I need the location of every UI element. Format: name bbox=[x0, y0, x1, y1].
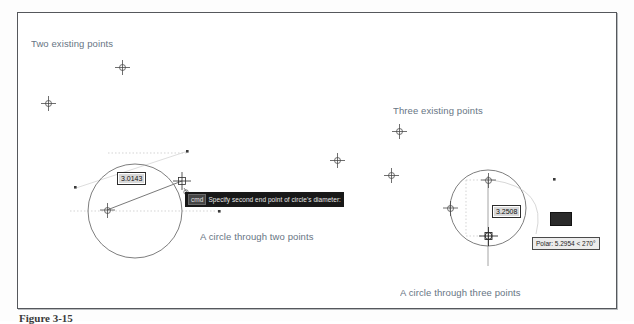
annotation-two-existing-points: Two existing points bbox=[31, 38, 113, 49]
cad-drawing-right bbox=[440, 158, 615, 273]
dimension-input-right[interactable]: 3.2508 bbox=[492, 205, 521, 218]
secondary-tooltip bbox=[550, 212, 572, 226]
point-marker-icon bbox=[384, 168, 399, 183]
point-marker-icon bbox=[115, 60, 130, 75]
figure-caption: Figure 3-15 bbox=[19, 312, 73, 324]
command-tooltip: cmdSpecify second end point of circle's … bbox=[185, 192, 344, 207]
point-marker-icon bbox=[392, 124, 407, 139]
command-tooltip-text: Specify second end point of circle's dia… bbox=[208, 196, 341, 203]
annotation-three-existing-points: Three existing points bbox=[393, 105, 483, 116]
command-tooltip-icon: cmd bbox=[188, 194, 206, 205]
polar-tracking-tooltip: Polar: 5.2954 < 270° bbox=[532, 237, 600, 250]
dimension-input-left[interactable]: 3.0143 bbox=[117, 172, 146, 185]
point-marker-icon bbox=[330, 153, 345, 168]
annotation-circle-through-three: A circle through three points bbox=[400, 287, 521, 298]
point-marker-icon bbox=[41, 96, 56, 111]
